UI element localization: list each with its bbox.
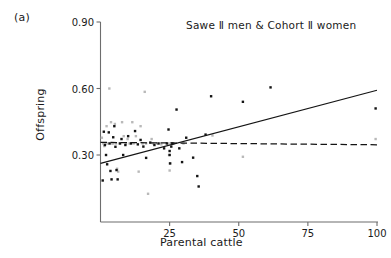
data-point: [110, 178, 112, 180]
data-point: [145, 157, 147, 159]
data-point: [102, 179, 104, 181]
data-point: [101, 137, 103, 139]
data-point: [144, 91, 146, 93]
data-point: [210, 95, 212, 97]
data-point: [153, 144, 155, 146]
scatter-plot-figure: (a) Sawe Ⅱ men & Cohort Ⅱ women Offsprin…: [0, 0, 391, 258]
data-point: [137, 170, 139, 172]
data-point: [112, 136, 114, 138]
data-point: [150, 138, 152, 140]
x-tick-label: 25: [163, 228, 176, 239]
data-point: [139, 125, 141, 127]
data-point: [105, 125, 107, 127]
data-point: [178, 147, 180, 149]
data-point: [374, 138, 376, 140]
data-point: [163, 147, 165, 149]
axis-spines: [101, 22, 379, 222]
data-point: [169, 162, 171, 164]
y-axis-label: Offspring: [34, 55, 47, 175]
data-point: [192, 156, 194, 158]
data-point: [139, 139, 141, 141]
data-point: [114, 123, 116, 125]
data-point: [170, 145, 172, 147]
data-point: [105, 154, 107, 156]
data-point: [242, 101, 244, 103]
data-point: [103, 131, 105, 133]
data-point: [147, 193, 149, 195]
x-tick-label: 50: [232, 228, 245, 239]
data-point: [196, 175, 198, 177]
data-point: [114, 146, 116, 148]
y-tick-label: 0.90: [56, 17, 94, 28]
data-point: [137, 143, 139, 145]
data-point: [374, 107, 376, 109]
data-point: [115, 169, 117, 171]
trend-line: [101, 90, 378, 163]
plot-canvas: [0, 0, 391, 258]
data-point: [197, 185, 199, 187]
data-point: [124, 144, 126, 146]
chart-title: Sawe Ⅱ men & Cohort Ⅱ women: [186, 19, 356, 31]
data-point: [108, 142, 110, 144]
data-point: [120, 138, 122, 140]
data-point: [142, 145, 144, 147]
data-point: [108, 131, 110, 133]
data-point: [123, 135, 125, 137]
data-point: [168, 154, 170, 156]
data-point: [106, 163, 108, 165]
data-point: [110, 121, 112, 123]
data-point: [108, 87, 110, 89]
data-point: [121, 121, 123, 123]
x-axis-ticks: [170, 222, 377, 226]
data-point: [134, 130, 136, 132]
data-point: [135, 135, 137, 137]
data-point: [185, 137, 187, 139]
data-point: [167, 128, 169, 130]
data-point: [168, 169, 170, 171]
y-tick-label: 0.60: [56, 83, 94, 94]
scatter-series: [101, 87, 377, 195]
data-point: [168, 150, 170, 152]
x-tick-label: 75: [302, 228, 315, 239]
data-point: [104, 144, 106, 146]
data-point: [122, 154, 124, 156]
data-point: [126, 138, 128, 140]
data-point: [127, 135, 129, 137]
data-point: [109, 170, 111, 172]
data-point: [157, 142, 159, 144]
data-point: [116, 178, 118, 180]
data-point: [242, 156, 244, 158]
data-point: [131, 121, 133, 123]
panel-label: (a): [14, 11, 30, 24]
x-tick-label: 100: [367, 228, 386, 239]
data-point: [181, 161, 183, 163]
data-point: [175, 108, 177, 110]
y-tick-label: 0.30: [56, 150, 94, 161]
data-point: [113, 125, 115, 127]
y-axis-ticks: [97, 22, 101, 155]
data-point: [269, 86, 271, 88]
